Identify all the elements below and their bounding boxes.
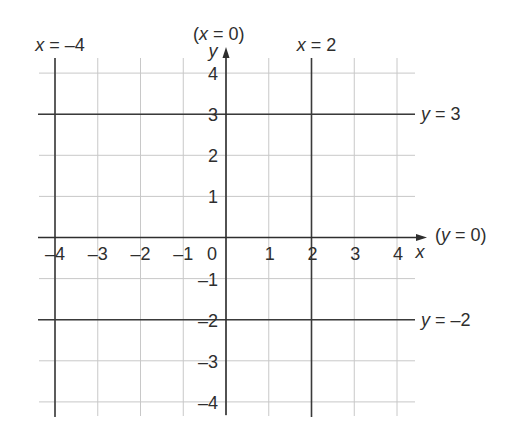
y-tick-label: –2 xyxy=(198,311,218,331)
x-axis-label: x xyxy=(415,242,426,262)
y-tick-label: –1 xyxy=(198,270,218,290)
x-tick-label: 3 xyxy=(350,244,360,264)
coordinate-grid-chart: x = –4x = 2y = 3y = –2–4–3–2–1012344321–… xyxy=(0,0,511,443)
y-axis-label: y xyxy=(207,41,219,61)
x-axis-arrowhead-icon xyxy=(416,234,427,241)
y-tick-label: 2 xyxy=(208,146,218,166)
y-axis-arrowhead-icon xyxy=(223,47,230,58)
x-tick-label: –2 xyxy=(130,244,150,264)
series-label: y = 3 xyxy=(419,104,461,124)
x-tick-label: 4 xyxy=(393,244,403,264)
series-label: y = –2 xyxy=(419,310,471,330)
y-axis-annotation: (x = 0) xyxy=(193,24,245,44)
y-tick-label: 4 xyxy=(208,64,218,84)
x-axis-annotation: (y = 0) xyxy=(435,225,487,245)
x-tick-label: –4 xyxy=(45,244,65,264)
series-label: x = –4 xyxy=(34,35,85,55)
x-tick-label: 1 xyxy=(265,244,275,264)
labels: x = –4x = 2y = 3y = –2–4–3–2–1012344321–… xyxy=(34,24,486,413)
series-label-equation: = 2 xyxy=(306,35,337,55)
y-tick-label: 3 xyxy=(208,105,218,125)
x-tick-label: 0 xyxy=(207,244,217,264)
x-tick-label: 2 xyxy=(307,244,317,264)
x-tick-label: –1 xyxy=(173,244,193,264)
series-label-equation: = 3 xyxy=(430,104,461,124)
y-tick-label: –4 xyxy=(198,393,218,413)
series-label: x = 2 xyxy=(296,35,337,55)
y-tick-label: –3 xyxy=(198,352,218,372)
y-tick-label: 1 xyxy=(208,187,218,207)
y-axis-annotation-suffix: = 0) xyxy=(208,24,245,44)
axes xyxy=(38,47,427,415)
x-axis-annotation-suffix: = 0) xyxy=(450,225,487,245)
series-label-equation: = –2 xyxy=(430,310,471,330)
series-label-equation: = –4 xyxy=(44,35,85,55)
x-tick-label: –3 xyxy=(88,244,108,264)
